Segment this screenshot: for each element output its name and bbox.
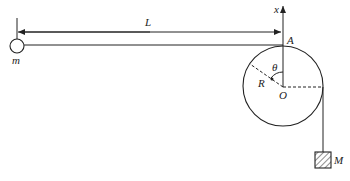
point-a-label: A bbox=[286, 34, 294, 46]
center-label: O bbox=[279, 89, 287, 101]
small-mass-m bbox=[10, 39, 24, 53]
pulley-diagram: L m x A θ R O M bbox=[0, 0, 350, 181]
hanging-mass-m bbox=[315, 152, 331, 168]
theta-label: θ bbox=[272, 61, 278, 73]
hanging-mass-label: M bbox=[333, 154, 344, 166]
mass-position-dot bbox=[271, 78, 274, 81]
radius-label: R bbox=[257, 77, 265, 89]
length-label: L bbox=[144, 16, 151, 28]
small-mass-label: m bbox=[12, 54, 20, 66]
angled-radius-dashed bbox=[250, 64, 283, 87]
x-axis-label: x bbox=[273, 3, 279, 15]
